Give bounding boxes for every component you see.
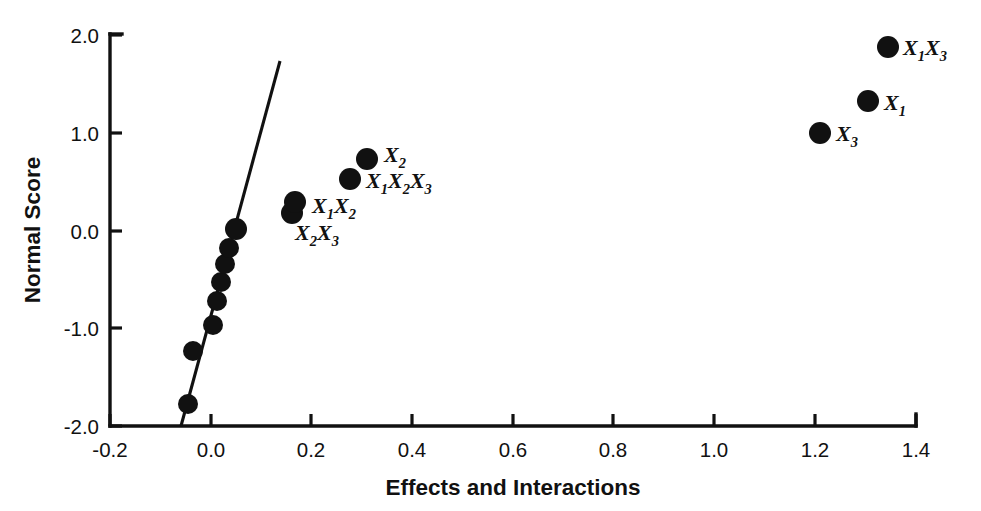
y-tick-labels: 2.0 1.0 0.0 -1.0 -2.0: [64, 24, 99, 438]
data-point[interactable]: [183, 341, 203, 361]
data-point[interactable]: [339, 168, 361, 190]
plot-canvas: 2.0 1.0 0.0 -1.0 -2.0 -0.2 0.0 0.2 0.4 0…: [0, 0, 981, 511]
point-label-x3: X3: [835, 121, 858, 150]
data-point[interactable]: [356, 148, 378, 170]
x-tick-labels: -0.2 0.0 0.2 0.4 0.6 0.8 1.0 1.2 1.4: [92, 438, 930, 461]
data-point[interactable]: [207, 291, 227, 311]
y-tick-label-2: 2.0: [71, 24, 100, 47]
data-point[interactable]: [203, 315, 223, 335]
point-label-x1x2: X1X2: [311, 193, 356, 222]
data-point[interactable]: [225, 218, 247, 240]
y-tick-label-1: 1.0: [71, 122, 100, 145]
y-tick-label-neg2: -2.0: [64, 415, 99, 438]
point-label-x1: X1: [883, 90, 906, 119]
data-point-group: [178, 36, 899, 414]
point-annotations: X1X3 X1 X3 X2 X1X2X3 X1X2 X2X3: [294, 35, 947, 249]
y-tick-label-neg1: -1.0: [64, 317, 99, 340]
x-tick-label-0p6: 0.6: [499, 438, 528, 461]
data-point[interactable]: [219, 238, 239, 258]
x-tick-label-1p0: 1.0: [700, 438, 729, 461]
y-tick-marks: [110, 35, 122, 426]
point-label-x2x3: X2X3: [294, 220, 339, 249]
x-tick-label-0p4: 0.4: [398, 438, 427, 461]
point-label-x1x3: X1X3: [902, 35, 947, 64]
data-point[interactable]: [877, 36, 899, 58]
point-label-x1x2x3: X1X2X3: [365, 168, 432, 197]
data-point[interactable]: [809, 122, 831, 144]
y-tick-label-0: 0.0: [71, 220, 100, 243]
x-tick-marks: [110, 414, 916, 426]
data-point[interactable]: [211, 272, 231, 292]
x-tick-label-1p2: 1.2: [801, 438, 830, 461]
normal-probability-plot: 2.0 1.0 0.0 -1.0 -2.0 -0.2 0.0 0.2 0.4 0…: [0, 0, 981, 511]
data-point[interactable]: [178, 394, 198, 414]
y-axis-title: Normal Score: [20, 157, 45, 303]
data-point[interactable]: [284, 191, 306, 213]
x-tick-label-0p0: 0.0: [197, 438, 226, 461]
x-tick-label-1p4: 1.4: [902, 438, 931, 461]
x-tick-label-neg0p2: -0.2: [92, 438, 127, 461]
x-tick-label-0p8: 0.8: [599, 438, 628, 461]
x-tick-label-0p2: 0.2: [297, 438, 326, 461]
point-label-x2: X2: [383, 142, 406, 171]
data-point[interactable]: [857, 90, 879, 112]
x-axis-title: Effects and Interactions: [385, 475, 640, 500]
